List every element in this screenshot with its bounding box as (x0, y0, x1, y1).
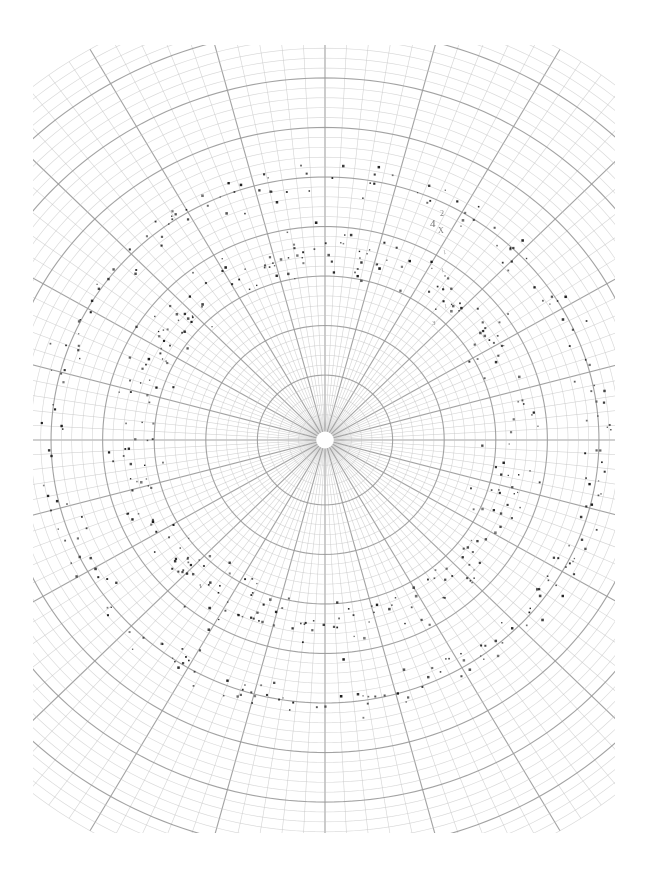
annotation-ann-x: X (438, 227, 444, 235)
polar-grid-canvas (0, 0, 646, 884)
annotation-ann-3: 3 (432, 320, 436, 327)
annotation-ann-4: 4 (430, 218, 436, 229)
annotation-ann-2: 2 (440, 210, 444, 218)
polar-chart-figure: 42X11113 (0, 0, 646, 884)
